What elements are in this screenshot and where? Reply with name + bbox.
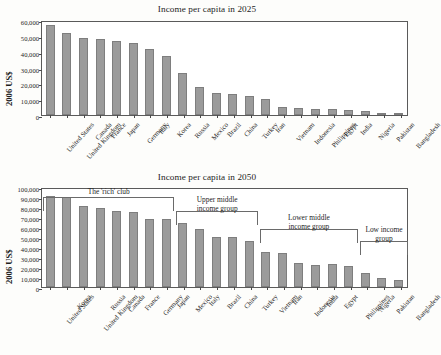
x-tick-mark xyxy=(367,115,368,118)
group-bracket xyxy=(176,211,257,225)
group-label: Upper middle income group xyxy=(176,195,257,213)
y-tick-mark xyxy=(39,279,42,280)
x-tick-mark xyxy=(184,287,185,290)
y-tick-mark xyxy=(39,209,42,210)
chart-title-2050: Income per capita in 2050 xyxy=(0,172,414,182)
x-tick-mark xyxy=(351,287,352,290)
chart-panel-2025: Income per capita in 2025 2006 US$ 010,0… xyxy=(0,0,414,176)
x-tick-mark xyxy=(50,287,51,290)
x-tick-label: Bangladesh xyxy=(414,293,441,322)
x-tick-label: Russia xyxy=(193,121,211,139)
bar xyxy=(162,219,171,287)
x-tick-label: Egypt xyxy=(342,293,358,310)
x-tick-label: Pakistan xyxy=(395,121,416,143)
x-tick-mark xyxy=(167,115,168,118)
x-tick-label: China xyxy=(242,121,258,138)
x-tick-mark xyxy=(267,287,268,290)
y-axis-label-2025: 2006 US$ xyxy=(4,71,14,106)
x-tick-mark xyxy=(100,115,101,118)
plot-area-2025: 010,00020,00030,00040,00050,00060,000Uni… xyxy=(41,21,408,116)
bar xyxy=(294,263,303,287)
x-tick-mark xyxy=(117,115,118,118)
x-tick-mark xyxy=(150,115,151,118)
y-tick-mark xyxy=(39,70,42,71)
plot-area-2050: 010,00020,00030,00040,00050,00060,00070,… xyxy=(41,188,408,288)
bar xyxy=(245,96,254,115)
x-tick-mark xyxy=(217,287,218,290)
bar xyxy=(112,41,121,115)
y-tick-mark xyxy=(39,38,42,39)
group-bracket xyxy=(360,241,408,255)
x-tick-mark xyxy=(301,287,302,290)
y-tick-mark xyxy=(39,219,42,220)
bar xyxy=(162,56,171,115)
bar xyxy=(394,280,403,287)
x-tick-mark xyxy=(150,287,151,290)
y-tick-mark xyxy=(39,189,42,190)
bar xyxy=(79,206,88,287)
x-tick-mark xyxy=(234,287,235,290)
bar xyxy=(311,109,320,115)
bar xyxy=(79,38,88,115)
bar xyxy=(195,229,204,288)
x-tick-mark xyxy=(367,287,368,290)
bar xyxy=(178,223,187,287)
x-tick-label: Japan xyxy=(125,121,141,137)
x-tick-label: Nigeria xyxy=(377,121,396,141)
bar xyxy=(294,108,303,115)
x-tick-mark xyxy=(167,287,168,290)
group-bracket xyxy=(43,197,174,211)
x-tick-label: India xyxy=(358,121,373,136)
bar xyxy=(145,219,154,288)
x-tick-mark xyxy=(100,287,101,290)
x-tick-label: Brazil xyxy=(226,121,242,138)
group-label: Lower middle income group xyxy=(260,213,358,231)
x-tick-mark xyxy=(267,115,268,118)
x-tick-label: Korea xyxy=(176,121,192,138)
bar xyxy=(212,237,221,288)
bar xyxy=(212,93,221,115)
x-tick-mark xyxy=(284,287,285,290)
x-tick-mark xyxy=(217,115,218,118)
bar xyxy=(328,264,337,287)
chart-panel-2050: Income per capita in 2050 2006 US$ 010,0… xyxy=(0,168,414,355)
bar xyxy=(46,25,55,115)
bar xyxy=(361,273,370,288)
y-axis-label-2050: 2006 US$ xyxy=(4,249,14,284)
x-tick-mark xyxy=(284,115,285,118)
bar xyxy=(245,241,254,288)
group-label: Low income group xyxy=(360,225,408,243)
x-tick-mark xyxy=(67,287,68,290)
x-tick-mark xyxy=(317,115,318,118)
y-tick-mark xyxy=(39,199,42,200)
y-tick-mark xyxy=(39,101,42,102)
y-tick-mark xyxy=(39,85,42,86)
x-tick-label: Bangladesh xyxy=(414,121,441,150)
bar xyxy=(278,253,287,288)
bar-series-2025 xyxy=(42,22,407,115)
group-bracket xyxy=(260,229,358,243)
x-tick-mark xyxy=(351,115,352,118)
bar xyxy=(377,278,386,287)
x-tick-label: Nigeria xyxy=(377,293,396,313)
bar xyxy=(344,266,353,288)
bar xyxy=(377,113,386,115)
x-tick-mark xyxy=(200,115,201,118)
x-tick-mark xyxy=(134,287,135,290)
x-tick-mark xyxy=(117,287,118,290)
y-tick-mark xyxy=(39,249,42,250)
x-tick-mark xyxy=(234,115,235,118)
x-tick-mark xyxy=(334,287,335,290)
bar xyxy=(228,94,237,115)
x-tick-mark xyxy=(200,287,201,290)
x-tick-mark xyxy=(401,115,402,118)
x-tick-label: Brazil xyxy=(226,293,242,310)
bar xyxy=(178,73,187,115)
x-tick-mark xyxy=(67,115,68,118)
x-tick-mark xyxy=(50,115,51,118)
x-tick-mark xyxy=(184,115,185,118)
bar xyxy=(344,110,353,115)
y-tick-mark xyxy=(39,289,42,290)
x-tick-label: China xyxy=(242,293,258,310)
x-tick-mark xyxy=(317,287,318,290)
